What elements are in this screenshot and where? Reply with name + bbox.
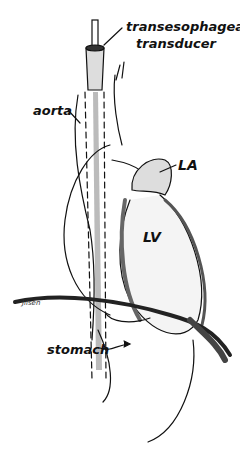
right-heart-outline [64, 145, 110, 315]
transducer-label-line1: transesophageal [126, 20, 240, 33]
left-atrium-label: LA [178, 158, 198, 172]
esophagus-wall-right [104, 92, 106, 380]
heart-tee-illustration [0, 0, 240, 466]
left-ventricle-label: LV [143, 230, 161, 244]
transducer-leader [104, 28, 122, 45]
stomach-label: stomach [47, 343, 109, 356]
probe-cable [92, 20, 98, 48]
probe-shaft [93, 92, 102, 370]
artist-signature: Jilsen [22, 299, 40, 307]
transducer-label-line2: transducer [136, 37, 216, 50]
aorta-label: aorta [33, 104, 72, 117]
left-atrium [132, 159, 172, 195]
stomach-outer-curve [148, 340, 194, 442]
probe-body [86, 48, 104, 90]
